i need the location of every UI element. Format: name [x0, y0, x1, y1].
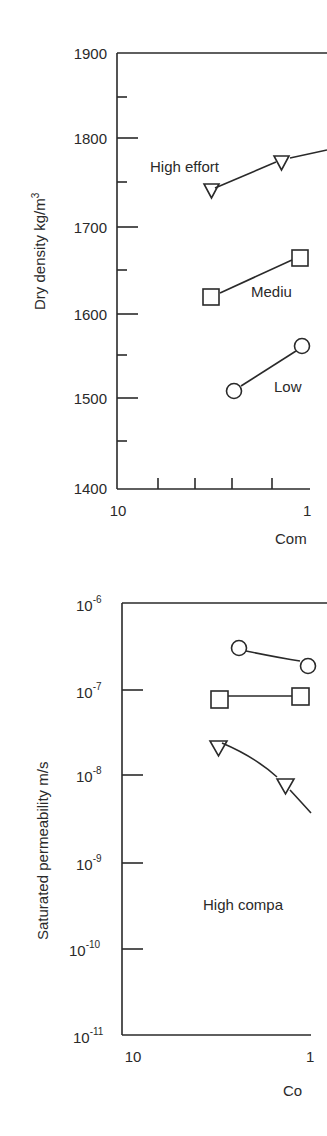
square-marker [211, 691, 228, 708]
bottom-y-axis-title: Saturated permeability m/s [34, 762, 51, 940]
square-marker [203, 289, 219, 305]
dry-density-chart [117, 53, 327, 489]
top-ytick-1400: 1400 [74, 480, 107, 497]
series-high-effort [204, 150, 327, 198]
top-xtick-1: 1 [303, 502, 311, 519]
bottom-ytick-1e-11: 10-11 [73, 1026, 104, 1046]
label-high-effort: High effort [150, 158, 220, 175]
circle-marker [295, 339, 310, 354]
triangle-marker [204, 184, 219, 198]
top-ytick-1900: 1900 [74, 45, 107, 62]
circle-marker [232, 641, 247, 656]
triangle-marker [274, 156, 289, 170]
series-low [232, 641, 316, 674]
circle-marker [301, 659, 316, 674]
top-y-axis-title: Dry density kg/m3 [30, 192, 48, 310]
series-high [210, 741, 311, 813]
top-ytick-1700: 1700 [74, 219, 107, 236]
series-medium [211, 688, 309, 708]
label-low: Low [274, 378, 302, 395]
bottom-xtick-10: 10 [125, 1048, 142, 1065]
circle-marker [227, 384, 242, 399]
label-high-compaction: High compa [203, 896, 284, 913]
bottom-x-axis-title: Co [283, 1082, 302, 1099]
figure: 1900 1800 1700 1600 1500 1400 10 1 Com D… [0, 0, 327, 1136]
top-ytick-1500: 1500 [74, 390, 107, 407]
top-ytick-1800: 1800 [74, 130, 107, 147]
square-marker [292, 250, 308, 266]
bottom-ytick-1e-6: 10-6 [76, 594, 102, 614]
permeability-chart [122, 603, 327, 1035]
bottom-ytick-1e-10: 10-10 [69, 939, 101, 959]
bottom-ytick-1e-7: 10-7 [76, 681, 102, 701]
bottom-ytick-1e-8: 10-8 [76, 765, 102, 785]
top-ytick-1600: 1600 [74, 306, 107, 323]
top-x-axis-title: Com [275, 530, 307, 547]
bottom-ytick-1e-9: 10-9 [76, 853, 102, 873]
top-xtick-10: 10 [110, 502, 127, 519]
square-marker [292, 688, 309, 705]
label-medium: Mediu [251, 283, 292, 300]
bottom-xtick-1: 1 [306, 1048, 314, 1065]
